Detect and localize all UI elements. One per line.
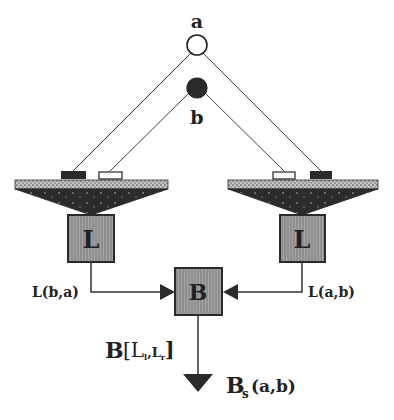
left-sensor-light xyxy=(99,172,122,179)
B-args-open: [Ll,Lr] xyxy=(123,338,175,362)
B-output-label: B [Ll,Lr] xyxy=(105,337,175,363)
B-label: B xyxy=(189,279,208,305)
left-arrow-icon xyxy=(223,284,238,300)
right-L-unit: L xyxy=(280,215,325,262)
right-platform-bar xyxy=(228,180,378,189)
source-a-label: a xyxy=(191,10,203,32)
left-output-label: L(b,a) xyxy=(32,284,79,300)
right-receptor xyxy=(228,171,378,214)
svg-text:B: B xyxy=(105,337,124,363)
left-connector xyxy=(91,262,162,292)
svg-text:(a,b): (a,b) xyxy=(251,376,296,396)
right-connector xyxy=(236,262,302,292)
svg-text:s: s xyxy=(242,387,249,401)
source-b-label: b xyxy=(190,106,203,128)
left-L-label: L xyxy=(83,225,100,254)
left-L-unit: L xyxy=(68,215,114,262)
binaural-B-unit: B xyxy=(175,268,222,315)
right-L-label: L xyxy=(294,225,311,254)
right-output-label: L(a,b) xyxy=(308,284,355,300)
filled-circle-icon xyxy=(187,78,207,98)
source-b: b xyxy=(187,78,207,128)
source-a: a xyxy=(187,10,207,55)
left-receptor xyxy=(15,171,168,214)
left-sensor-dark xyxy=(61,171,86,179)
final-output-label: B s (a,b) xyxy=(226,372,296,401)
right-funnel xyxy=(228,189,378,214)
open-circle-icon xyxy=(187,35,207,55)
right-sensor-dark xyxy=(310,171,332,179)
right-sensor-light xyxy=(273,172,295,179)
left-platform-bar xyxy=(15,180,168,189)
left-funnel xyxy=(15,189,168,214)
binaural-diagram: a b L L L(b,a) L(a,b) xyxy=(0,0,394,420)
right-arrow-icon xyxy=(160,284,175,300)
down-arrow-icon xyxy=(183,374,213,392)
